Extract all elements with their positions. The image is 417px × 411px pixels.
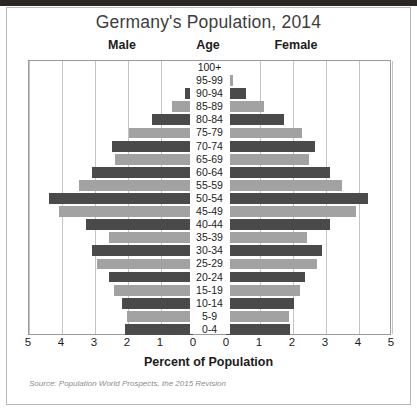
scan-edge-band [0,0,417,6]
bar-female-30-34 [226,245,322,256]
bar-female-0-4 [226,324,290,335]
bar-male-55-59 [79,180,193,191]
age-label-30-34: 30-34 [190,244,230,257]
x-axis-label: Percent of Population [0,355,417,369]
bar-male-0-4 [125,324,193,335]
age-label-25-29: 25-29 [190,257,230,270]
bar-male-40-44 [86,219,193,230]
age-label-60-64: 60-64 [190,166,230,179]
x-tick-left-2: 2 [115,336,139,348]
age-label-80-84: 80-84 [190,113,230,126]
age-label-20-24: 20-24 [190,271,230,284]
bar-female-65-69 [226,154,309,165]
bar-female-5-9 [226,311,289,322]
age-label-10-14: 10-14 [190,297,230,310]
age-label-50-54: 50-54 [190,192,230,205]
x-tick-left-1: 1 [148,336,172,348]
age-label-0-4: 0-4 [190,323,230,336]
bar-female-35-39 [226,232,307,243]
bar-female-45-49 [226,206,356,217]
bar-female-50-54 [226,193,368,204]
bar-female-10-14 [226,298,294,309]
age-label-100+: 100+ [190,61,230,74]
bar-male-25-29 [97,259,193,270]
x-tick-right-4: 4 [346,336,370,348]
bar-female-75-79 [226,128,302,139]
bar-male-75-79 [129,128,193,139]
x-tick-left-5: 5 [16,336,40,348]
bar-male-70-74 [112,141,193,152]
bar-female-40-44 [226,219,330,230]
age-label-column: 100+95-9990-9485-8980-8475-7970-7465-696… [190,61,230,334]
x-axis-ticks: 543210012345 [28,336,391,352]
bar-male-10-14 [122,298,193,309]
age-label-85-89: 85-89 [190,100,230,113]
age-label-90-94: 90-94 [190,87,230,100]
bar-female-60-64 [226,167,330,178]
x-tick-right-2: 2 [280,336,304,348]
x-tick-right-1: 1 [247,336,271,348]
chart-title: Germany's Population, 2014 [0,12,417,33]
bar-male-65-69 [115,154,193,165]
bar-female-25-29 [226,259,317,270]
x-tick-left-4: 4 [49,336,73,348]
column-header-male: Male [62,38,182,52]
bar-male-80-84 [152,114,193,125]
age-label-55-59: 55-59 [190,179,230,192]
age-label-35-39: 35-39 [190,231,230,244]
bar-female-20-24 [226,272,305,283]
chart-plot-area: 100+95-9990-9485-8980-8475-7970-7465-696… [28,60,391,335]
x-tick-right-5: 5 [379,336,403,348]
age-label-75-79: 75-79 [190,126,230,139]
x-tick-right-0: 0 [214,336,238,348]
bar-female-70-74 [226,141,315,152]
bar-male-50-54 [49,193,193,204]
column-header-age: Age [178,38,238,52]
age-label-15-19: 15-19 [190,284,230,297]
bar-male-60-64 [92,167,193,178]
bar-male-35-39 [109,232,193,243]
bar-male-30-34 [92,245,193,256]
bar-female-55-59 [226,180,342,191]
age-label-40-44: 40-44 [190,218,230,231]
bar-male-15-19 [114,285,193,296]
age-label-5-9: 5-9 [190,310,230,323]
x-tick-right-3: 3 [313,336,337,348]
bar-female-15-19 [226,285,300,296]
age-label-95-99: 95-99 [190,74,230,87]
population-pyramid-page: Germany's Population, 2014 Male Age Fema… [0,0,417,411]
column-header-female: Female [236,38,356,52]
bar-female-85-89 [226,101,264,112]
bar-female-80-84 [226,114,284,125]
bar-male-45-49 [59,206,193,217]
x-tick-left-3: 3 [82,336,106,348]
x-tick-left-0: 0 [181,336,205,348]
source-citation: Source: Population World Prospects, the … [29,379,226,388]
age-label-65-69: 65-69 [190,153,230,166]
age-label-70-74: 70-74 [190,140,230,153]
gridline [392,61,393,334]
age-label-45-49: 45-49 [190,205,230,218]
bar-male-5-9 [127,311,193,322]
bar-male-20-24 [109,272,193,283]
